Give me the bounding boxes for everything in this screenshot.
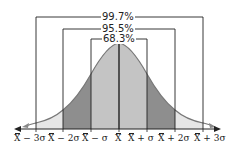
axis-arrow-left-icon <box>14 126 21 132</box>
interval-label-99-7: 99.7% <box>101 12 135 22</box>
axis-label-minus-1sigma: X − σ <box>82 133 108 144</box>
region-1sigma-right <box>119 43 147 129</box>
interval-label-68-3: 68.3% <box>102 34 136 44</box>
axis-label-plus-1sigma: X + σ <box>128 133 154 144</box>
axis-label-mean: X <box>115 133 121 144</box>
axis-label-plus-2sigma: X + 2σ <box>158 133 190 144</box>
curve-arrow-left <box>22 123 29 128</box>
region-1sigma-left <box>91 43 119 129</box>
axis-arrow-right-icon <box>214 126 221 132</box>
axis-label-minus-2sigma: X − 2σ <box>48 133 80 144</box>
axis-label-plus-3sigma: X + 3σ <box>194 133 226 144</box>
axis-label-minus-3sigma: X − 3σ <box>14 133 46 144</box>
